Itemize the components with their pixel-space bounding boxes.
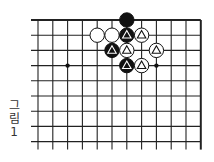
white-stone-marked [134,28,148,42]
stone-body [105,28,119,42]
caption-char: 1 [6,126,22,139]
white-stone [90,28,104,42]
star-point [154,63,158,67]
stone-body [120,13,134,27]
black-stone-marked [120,28,134,42]
stone-body [90,28,104,42]
star-point [65,63,69,67]
stones [90,13,164,73]
black-stone-marked [105,43,119,57]
white-stone [105,28,119,42]
black-stone [120,13,134,27]
white-stone-marked [120,43,134,57]
figure-caption: 그 림 1 [6,100,22,139]
go-board [0,0,214,162]
black-stone-marked [120,58,134,72]
white-stone-marked [134,58,148,72]
white-stone-marked [149,43,163,57]
